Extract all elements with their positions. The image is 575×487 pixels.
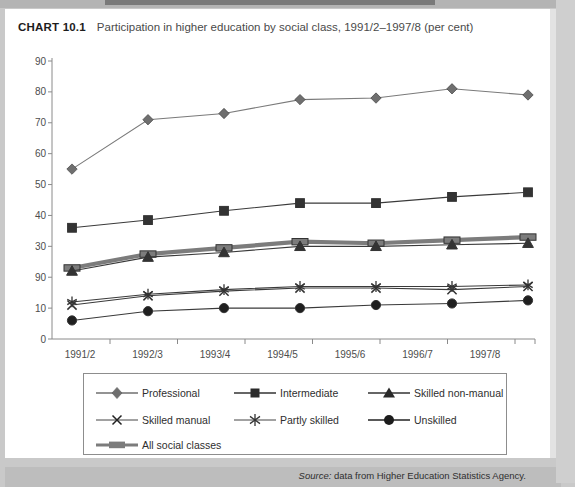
- y-axis-tick-label: 60: [35, 148, 47, 159]
- source-note: Source: data from Higher Education Stati…: [299, 470, 526, 481]
- data-point: [143, 114, 153, 124]
- x-axis-tick-label: 1994/5: [267, 349, 298, 360]
- circle-icon: [366, 411, 412, 429]
- legend-row-1: Professional Intermediate Skilled non-ma…: [84, 382, 506, 404]
- series-unskilled: [67, 296, 532, 325]
- triangle-icon: [366, 384, 412, 402]
- page-right-edge: [556, 0, 575, 483]
- legend-item-skilled-non-manual[interactable]: Skilled non-manual: [366, 382, 503, 404]
- chart-legend: Professional Intermediate Skilled non-ma…: [83, 373, 507, 455]
- legend-item-skilled-manual[interactable]: Skilled manual: [94, 409, 210, 431]
- data-point: [220, 206, 229, 215]
- series-all-social-classes: [64, 234, 536, 271]
- data-point: [68, 223, 77, 232]
- y-axis-tick-label: 90: [35, 272, 47, 283]
- thick-bar-icon: [94, 436, 140, 454]
- data-point: [523, 296, 532, 305]
- legend-item-all-social-classes[interactable]: All social classes: [94, 434, 221, 456]
- x-axis-tick-label: 1995/6: [335, 349, 366, 360]
- page-top-strip: [0, 0, 575, 8]
- data-point: [372, 199, 381, 208]
- y-axis-tick-label: 50: [35, 179, 47, 190]
- data-point: [296, 199, 305, 208]
- data-point: [144, 216, 153, 225]
- legend-label-unskilled: Unskilled: [414, 414, 457, 426]
- data-point: [295, 304, 304, 313]
- square-icon: [232, 384, 278, 402]
- series-intermediate: [68, 188, 533, 232]
- legend-label-skilled-manual: Skilled manual: [142, 414, 210, 426]
- data-point: [371, 93, 381, 103]
- y-axis-tick-label: 70: [35, 117, 47, 128]
- legend-label-skilled-non-manual: Skilled non-manual: [414, 387, 503, 399]
- legend-label-all-social-classes: All social classes: [142, 439, 221, 451]
- data-point: [523, 90, 533, 100]
- y-axis-tick-label: 10: [35, 303, 47, 314]
- legend-row-3: All social classes: [84, 434, 506, 456]
- x-axis-tick-label: 1997/8: [470, 349, 501, 360]
- data-point: [143, 307, 152, 316]
- legend-item-unskilled[interactable]: Unskilled: [366, 409, 457, 431]
- data-point: [371, 300, 380, 309]
- asterisk-icon: [232, 411, 278, 429]
- y-axis-tick-label: 80: [35, 86, 47, 97]
- x-axis-tick-label: 1993/4: [200, 349, 231, 360]
- y-axis-tick-label: 30: [35, 241, 47, 252]
- diamond-icon: [94, 384, 140, 402]
- data-point: [295, 94, 305, 104]
- legend-item-intermediate[interactable]: Intermediate: [232, 382, 338, 404]
- data-point: [219, 304, 228, 313]
- legend-row-2: Skilled manual Partly skilled Unskilled: [84, 409, 506, 431]
- chart-card: CHART 10.1Participation in higher educat…: [5, 9, 550, 458]
- source-body: data from Higher Education Statistics Ag…: [334, 470, 526, 481]
- y-axis-tick-label: 90: [35, 56, 47, 67]
- series-professional: [67, 84, 533, 175]
- y-axis-tick-label: 0: [40, 334, 46, 345]
- x-axis-tick-label: 1991/2: [65, 349, 96, 360]
- data-point: [448, 193, 457, 202]
- x-axis-tick-label: 1992/3: [132, 349, 163, 360]
- x-axis-tick-label: 1996/7: [402, 349, 433, 360]
- data-point: [219, 108, 229, 118]
- x-mark-icon: [94, 411, 140, 429]
- legend-item-partly-skilled[interactable]: Partly skilled: [232, 409, 339, 431]
- legend-label-partly-skilled: Partly skilled: [280, 414, 339, 426]
- data-point: [67, 316, 76, 325]
- chart-svg: 01090304050607080901991/21992/31993/4199…: [5, 9, 550, 369]
- legend-label-professional: Professional: [142, 387, 200, 399]
- source-prefix: Source:: [299, 470, 332, 481]
- data-point: [447, 84, 457, 94]
- data-point: [524, 188, 533, 197]
- data-point: [447, 299, 456, 308]
- legend-item-professional[interactable]: Professional: [94, 382, 200, 404]
- y-axis-tick-label: 40: [35, 210, 47, 221]
- data-point: [67, 164, 77, 174]
- legend-label-intermediate: Intermediate: [280, 387, 338, 399]
